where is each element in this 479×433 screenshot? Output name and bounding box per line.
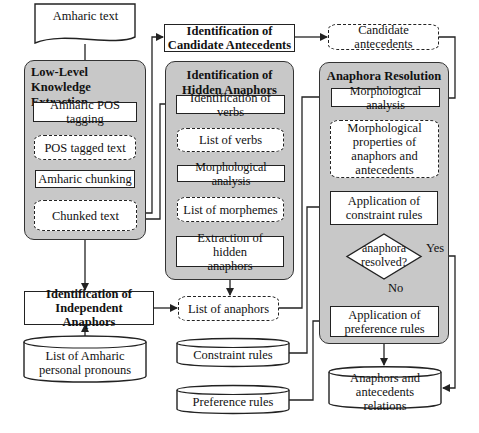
pos-tagging-process: Amharic POS tagging xyxy=(33,102,137,122)
decision-label: anaphora resolved? xyxy=(355,241,413,269)
identification-of-verbs-process: Identification of verbs xyxy=(176,95,285,114)
morphological-properties-store: Morphological properties of anaphors and… xyxy=(330,120,439,178)
list-of-anaphors-store: List of anaphors xyxy=(178,296,279,321)
apply-preference-rules-process: Application of preference rules xyxy=(330,306,439,337)
chunked-text-store: Chunked text xyxy=(34,200,137,231)
constraint-rules-database: Constraint rules xyxy=(176,343,290,367)
no-edge-label: No xyxy=(388,281,403,296)
candidate-antecedents-store: Candidate antecedents xyxy=(328,24,439,50)
independent-anaphors-identification: Identification of Independent Anaphors xyxy=(24,291,154,325)
chunking-process: Amharic chunking xyxy=(35,170,135,188)
candidate-antecedents-identification: Identification of Candidate Antecedents xyxy=(164,24,295,52)
list-of-morphemes-store: List of morphemes xyxy=(177,197,284,222)
morphological-analysis-hidden-process: Morphological analysis xyxy=(177,165,285,182)
pos-tagged-text-store: POS tagged text xyxy=(34,135,136,160)
list-of-verbs-store: List of verbs xyxy=(177,128,284,152)
apply-constraint-rules-process: Application of constraint rules xyxy=(330,191,438,225)
resolution-group-title: Anaphora Resolution xyxy=(320,69,448,84)
amharic-text-input: Amharic text xyxy=(34,9,137,24)
relations-database: Anaphors and antecedents relations xyxy=(328,375,442,409)
yes-edge-label: Yes xyxy=(426,241,444,256)
preference-rules-database: Preference rules xyxy=(176,390,290,414)
pronoun-list-database: List of Amharic personal pronouns xyxy=(23,345,147,381)
extraction-of-hidden-anaphors-process: Extraction of hidden anaphors xyxy=(176,236,284,267)
morphological-analysis-resolution-process: Morphological analysis xyxy=(331,88,440,107)
